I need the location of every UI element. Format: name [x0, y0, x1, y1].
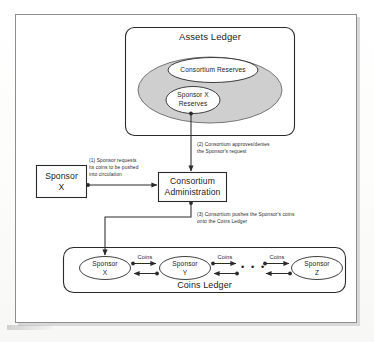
coins-edge-y-gap-dot-b [235, 272, 239, 276]
coins-node-y-label-line1: Sponsor [160, 260, 210, 268]
coins-edge-x-y-dot-b [155, 272, 159, 276]
annotation-2-line1: (2) Consortium approves/denies [197, 142, 307, 149]
coins-node-z-label-line2: Z [292, 269, 342, 277]
annotation-3-line2: onto the Coins Ledger [197, 219, 327, 226]
annotation-2-line2: the Sponsor's request [197, 149, 307, 156]
connector-admin-source-dot [189, 201, 193, 205]
scan-artifact [7, 325, 53, 330]
connector-sponsor-source-dot [86, 183, 90, 187]
coins-edge-x-y-dot-a [131, 262, 135, 266]
annotation-1-line3: into circulation [89, 172, 169, 179]
consortium-administration-label-line2: Administration [159, 187, 226, 197]
sponsor-x-reserves-label-line1: Sponsor X [166, 91, 220, 99]
annotation-1-line1: (1) Sponsor requests [89, 158, 169, 165]
coins-ledger-title: Coins Ledger [63, 280, 346, 291]
annotation-3-line1: (3) Consortium pushes the Sponsor's coin… [197, 212, 327, 219]
sponsor-x-box-label-line1: Sponsor [37, 171, 86, 181]
coins-node-y-label-line2: Y [160, 269, 210, 277]
coins-edge-label-3: Coins [260, 254, 294, 261]
assets-ledger-title: Assets Ledger [125, 31, 295, 42]
consortium-administration-label-line1: Consortium [159, 176, 226, 186]
connector-assets-source-dot [189, 112, 193, 116]
figure-screenshot: Assets Ledger Consortium Reserves Sponso… [0, 0, 374, 342]
sponsor-x-reserves-label-line2: Reserves [166, 100, 220, 108]
consortium-reserves-label: Consortium Reserves [168, 66, 258, 74]
coins-edge-y-gap-dot-a [211, 262, 215, 266]
coins-node-z-label-line1: Sponsor [292, 260, 342, 268]
sponsor-x-box-label-line2: X [37, 182, 86, 192]
coins-node-x-label-line2: X [80, 269, 130, 277]
coins-node-x-label-line1: Sponsor [80, 260, 130, 268]
annotation-1-line2: its coins to be pushed [89, 165, 169, 172]
coins-edge-label-2: Coins [208, 254, 242, 261]
coins-ledger-ellipsis: • • • [241, 262, 267, 273]
coins-edge-label-1: Coins [128, 254, 162, 261]
